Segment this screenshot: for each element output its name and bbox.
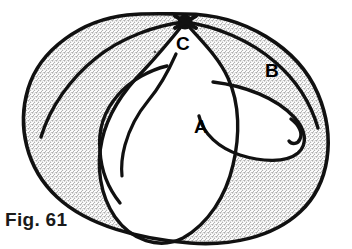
- figure-caption: Fig. 61: [5, 210, 67, 229]
- region-label-a: A: [194, 117, 208, 136]
- region-label-b: B: [265, 61, 279, 80]
- region-label-c: C: [176, 34, 190, 53]
- figure-container: A B C Fig. 61: [0, 0, 352, 249]
- ink-speck: [154, 51, 156, 53]
